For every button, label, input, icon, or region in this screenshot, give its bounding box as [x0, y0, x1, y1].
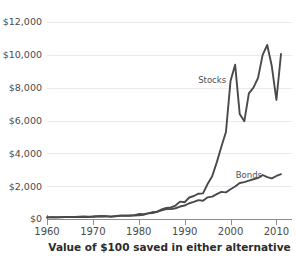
- y-axis-tick-label: $12,000: [3, 16, 42, 27]
- chart-container: $0$2,000$4,000$6,000$8,000$10,000$12,000…: [0, 0, 296, 258]
- x-axis-tick-label: 1980: [126, 226, 151, 237]
- x-axis-tick-label: 2000: [218, 226, 243, 237]
- x-axis-tick-label: 1960: [34, 226, 59, 237]
- gridlines: [47, 23, 292, 187]
- series-label-bonds: Bonds: [236, 170, 263, 180]
- y-axis-tick-label: $6,000: [9, 115, 42, 126]
- x-axis-tick-label: 1990: [172, 226, 197, 237]
- series-label-stocks: Stocks: [198, 75, 227, 85]
- x-axis-tick-label: 1970: [80, 226, 105, 237]
- y-axis-tick-label: $8,000: [9, 82, 42, 93]
- x-axis-tick-labels: 196019701980199020002010: [34, 226, 289, 237]
- series-line-bonds: [47, 174, 281, 217]
- line-chart: $0$2,000$4,000$6,000$8,000$10,000$12,000…: [0, 0, 296, 258]
- chart-caption: Value of $100 saved in either alternativ…: [48, 241, 290, 253]
- x-axis-tick-label: 2010: [264, 226, 289, 237]
- data-series: [47, 45, 281, 217]
- y-axis-tick-label: $10,000: [3, 49, 42, 60]
- y-axis-tick-label: $4,000: [9, 148, 42, 159]
- y-axis-tick-label: $0: [30, 213, 42, 224]
- y-axis-tick-label: $2,000: [9, 181, 42, 192]
- y-axis-tick-labels: $0$2,000$4,000$6,000$8,000$10,000$12,000: [3, 16, 42, 224]
- series-line-stocks: [47, 45, 281, 217]
